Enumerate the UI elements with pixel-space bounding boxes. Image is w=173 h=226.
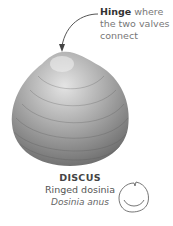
annotation-term: Hinge (100, 6, 131, 17)
genus-label: DISCUS (30, 172, 130, 184)
common-name: Ringed dosinia (30, 184, 130, 196)
shell-illustration (8, 50, 133, 168)
shell-outline-icon (116, 178, 152, 214)
scientific-name: Dosinia anus (30, 196, 130, 208)
species-caption: DISCUS Ringed dosinia Dosinia anus (30, 172, 130, 208)
hinge-annotation: Hinge where the two valves connect (100, 6, 170, 42)
